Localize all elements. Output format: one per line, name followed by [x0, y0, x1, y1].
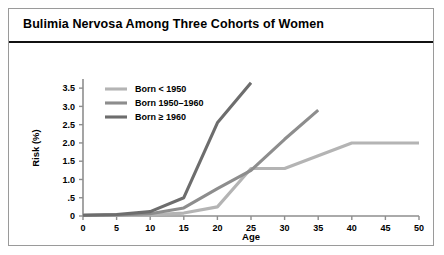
y-tick-label: 0	[70, 211, 75, 221]
x-axis-label: Age	[242, 231, 260, 242]
y-tick-label: 3.0	[62, 102, 75, 112]
legend-label: Born 1950–1960	[135, 98, 204, 108]
line-chart: 0.51.01.52.02.53.03.5 051015202530354045…	[9, 43, 435, 245]
page-title: Bulimia Nervosa Among Three Cohorts of W…	[23, 17, 324, 31]
series-line	[83, 143, 419, 215]
x-tick-label: 15	[179, 223, 189, 233]
x-tick-label: 45	[380, 223, 390, 233]
x-tick-label: 10	[145, 223, 155, 233]
x-tick-label: 30	[280, 223, 290, 233]
y-tick-label: 1.5	[62, 156, 75, 166]
title-band: Bulimia Nervosa Among Three Cohorts of W…	[9, 9, 433, 43]
figure-frame: Bulimia Nervosa Among Three Cohorts of W…	[8, 8, 434, 246]
plot-area: 0.51.01.52.02.53.03.5 051015202530354045…	[9, 43, 435, 245]
y-tick-group: 0.51.01.52.02.53.03.5	[62, 83, 83, 221]
legend-label: Born ≥ 1960	[135, 112, 186, 122]
x-tick-label: 40	[347, 223, 357, 233]
x-tick-label: 5	[114, 223, 119, 233]
x-tick-label: 35	[313, 223, 323, 233]
y-axis-label: Risk (%)	[30, 129, 41, 166]
x-tick-label: 50	[414, 223, 424, 233]
legend-label: Born < 1950	[135, 84, 186, 94]
chart-legend: Born < 1950Born 1950–1960Born ≥ 1960	[105, 84, 204, 122]
y-tick-label: .5	[67, 193, 75, 203]
x-tick-label: 0	[80, 223, 85, 233]
x-tick-label: 20	[212, 223, 222, 233]
y-tick-label: 2.0	[62, 138, 75, 148]
y-tick-label: 1.0	[62, 175, 75, 185]
y-tick-label: 2.5	[62, 120, 75, 130]
series-group	[83, 83, 419, 216]
y-tick-label: 3.5	[62, 83, 75, 93]
